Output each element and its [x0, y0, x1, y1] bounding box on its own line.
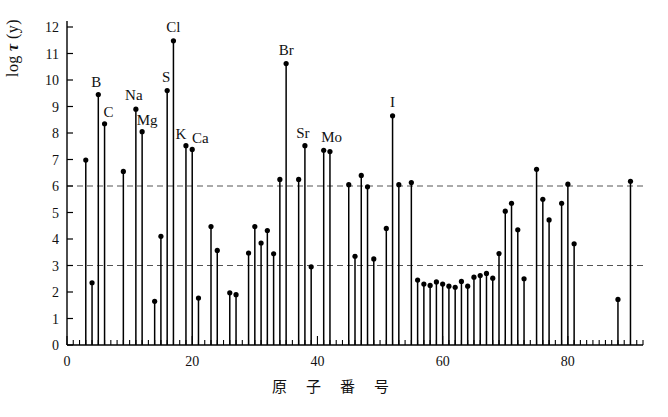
x-tick-label-0: 0 — [64, 354, 71, 369]
data-point-z-71[interactable] — [509, 201, 514, 206]
y-tick-label-4: 4 — [52, 232, 59, 247]
data-point-z-81[interactable] — [572, 241, 577, 246]
data-point-z-3[interactable] — [83, 157, 88, 162]
data-point-z-68[interactable] — [490, 276, 495, 281]
data-point-z-46[interactable] — [352, 254, 357, 259]
data-point-z-63[interactable] — [459, 279, 464, 284]
data-point-z-9[interactable] — [121, 169, 126, 174]
annotation-Sr: Sr — [296, 125, 309, 141]
data-point-z-77[interactable] — [546, 217, 551, 222]
data-point-z-52[interactable] — [390, 113, 395, 118]
data-point-z-34[interactable] — [277, 177, 282, 182]
data-point-z-57[interactable] — [421, 281, 426, 286]
data-point-z-4[interactable] — [89, 280, 94, 285]
data-point-z-16[interactable] — [165, 88, 170, 93]
annotation-Br: Br — [279, 42, 294, 58]
data-point-z-72[interactable] — [515, 227, 520, 232]
y-tick-label-11: 11 — [46, 47, 59, 62]
data-point-z-64[interactable] — [465, 284, 470, 289]
data-point-z-6[interactable] — [102, 121, 107, 126]
y-axis-label: log τ (y) — [4, 0, 22, 118]
data-point-z-12[interactable] — [140, 129, 145, 134]
annotation-S: S — [162, 69, 170, 85]
y-tick-label-5: 5 — [52, 206, 59, 221]
stem-plot: 0123456789101112020406080BCNaMgSClKCaBrS… — [0, 0, 668, 417]
x-tick-label-60: 60 — [436, 354, 450, 369]
data-point-z-33[interactable] — [271, 251, 276, 256]
y-tick-label-7: 7 — [52, 153, 59, 168]
data-point-z-69[interactable] — [496, 251, 501, 256]
annotation-Mo: Mo — [321, 129, 342, 145]
data-point-z-27[interactable] — [233, 292, 238, 297]
y-tick-label-10: 10 — [45, 73, 59, 88]
data-point-z-29[interactable] — [246, 250, 251, 255]
figure-container: 0123456789101112020406080BCNaMgSClKCaBrS… — [0, 0, 668, 417]
data-point-z-70[interactable] — [503, 209, 508, 214]
y-tick-label-9: 9 — [52, 100, 59, 115]
data-point-z-5[interactable] — [96, 92, 101, 97]
data-point-z-39[interactable] — [309, 264, 314, 269]
data-point-z-24[interactable] — [215, 248, 220, 253]
data-point-z-41[interactable] — [321, 148, 326, 153]
data-point-z-49[interactable] — [371, 256, 376, 261]
data-point-z-90[interactable] — [628, 179, 633, 184]
x-axis-label: 原 子 番 号 — [0, 375, 668, 396]
annotation-Ca: Ca — [192, 130, 209, 146]
data-point-z-17[interactable] — [171, 38, 176, 43]
annotation-Cl: Cl — [166, 19, 180, 35]
data-point-z-76[interactable] — [540, 197, 545, 202]
data-point-z-67[interactable] — [484, 271, 489, 276]
data-point-z-58[interactable] — [428, 283, 433, 288]
y-tick-label-8: 8 — [52, 126, 59, 141]
data-point-z-38[interactable] — [302, 143, 307, 148]
annotation-I: I — [390, 94, 395, 110]
data-point-z-31[interactable] — [258, 240, 263, 245]
data-point-z-23[interactable] — [208, 224, 213, 229]
annotation-K: K — [176, 126, 187, 142]
y-tick-label-0: 0 — [52, 338, 59, 353]
data-point-z-62[interactable] — [453, 285, 458, 290]
data-point-z-19[interactable] — [183, 143, 188, 148]
data-point-z-51[interactable] — [384, 226, 389, 231]
y-tick-label-1: 1 — [52, 312, 59, 327]
y-axis-label-text: log τ (y) — [4, 19, 21, 77]
annotation-Mg: Mg — [137, 112, 158, 128]
annotation-B: B — [91, 74, 101, 90]
figure-caption — [0, 400, 668, 416]
data-point-z-37[interactable] — [296, 177, 301, 182]
data-point-z-73[interactable] — [521, 276, 526, 281]
data-point-z-66[interactable] — [478, 273, 483, 278]
data-point-z-45[interactable] — [346, 182, 351, 187]
y-tick-label-6: 6 — [52, 179, 59, 194]
data-point-z-35[interactable] — [284, 61, 289, 66]
data-point-z-21[interactable] — [196, 295, 201, 300]
data-point-z-65[interactable] — [471, 275, 476, 280]
data-point-z-79[interactable] — [559, 201, 564, 206]
x-tick-label-40: 40 — [310, 354, 324, 369]
data-point-z-26[interactable] — [227, 290, 232, 295]
annotation-Na: Na — [125, 87, 143, 103]
data-point-z-47[interactable] — [359, 173, 364, 178]
data-point-z-80[interactable] — [565, 182, 570, 187]
y-tick-label-3: 3 — [52, 259, 59, 274]
data-point-z-53[interactable] — [396, 182, 401, 187]
annotation-C: C — [104, 104, 114, 120]
data-point-z-61[interactable] — [446, 284, 451, 289]
data-point-z-30[interactable] — [252, 224, 257, 229]
data-point-z-55[interactable] — [409, 180, 414, 185]
data-point-z-15[interactable] — [158, 234, 163, 239]
data-point-z-56[interactable] — [415, 277, 420, 282]
data-point-z-59[interactable] — [434, 279, 439, 284]
data-point-z-20[interactable] — [190, 147, 195, 152]
data-point-z-48[interactable] — [365, 184, 370, 189]
data-point-z-88[interactable] — [615, 297, 620, 302]
x-tick-label-80: 80 — [561, 354, 575, 369]
data-point-z-32[interactable] — [265, 228, 270, 233]
y-tick-label-2: 2 — [52, 285, 59, 300]
data-point-z-75[interactable] — [534, 167, 539, 172]
x-tick-label-20: 20 — [185, 354, 199, 369]
y-tick-label-12: 12 — [45, 20, 59, 35]
data-point-z-14[interactable] — [152, 299, 157, 304]
data-point-z-42[interactable] — [327, 149, 332, 154]
data-point-z-60[interactable] — [440, 281, 445, 286]
